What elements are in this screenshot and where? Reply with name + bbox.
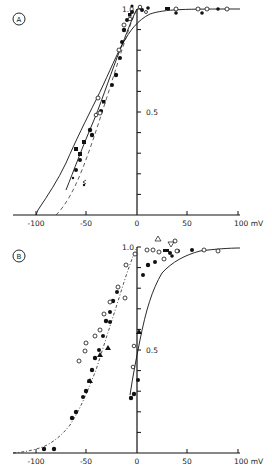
series-open-a — [83, 5, 229, 184]
series-filled-b — [42, 248, 194, 451]
x-tick-label: 100 mV — [234, 219, 264, 228]
x-tick-label: 100 mV — [234, 457, 264, 466]
fit-curve-solid — [130, 248, 240, 395]
x-tick-label: 0 — [135, 219, 140, 228]
svg-text:B: B — [17, 253, 22, 261]
figure: A -100 -50 0 50 100 mV 0.5 — [0, 0, 272, 471]
fit-curve-steep — [66, 9, 137, 190]
series-filled-a — [72, 4, 220, 186]
y-tick-label-full: 1.0 — [122, 243, 134, 252]
fit-curve-dashdot — [13, 247, 137, 453]
x-tick-label: -100 — [27, 457, 44, 466]
x-tick-label: -50 — [80, 219, 92, 228]
series-triangles-b — [87, 236, 174, 383]
panel-a: A -100 -50 0 50 100 mV 0.5 — [13, 4, 264, 228]
x-tick-label: 50 — [182, 457, 192, 466]
x-tick-label: 0 — [135, 457, 140, 466]
y-ticks — [137, 9, 141, 194]
x-tick-label: 50 — [182, 219, 192, 228]
svg-text:A: A — [17, 16, 22, 24]
y-tick-label-half: 0.5 — [146, 108, 158, 117]
x-tick-label: -50 — [80, 457, 92, 466]
panel-a-label: A — [13, 13, 25, 25]
panel-b-label: B — [13, 250, 25, 262]
panel-b: B -100 -50 0 50 100 mV 0.5 — [13, 236, 264, 466]
x-tick-label: -100 — [27, 219, 44, 228]
y-tick-label-half: 0.5 — [146, 346, 158, 355]
